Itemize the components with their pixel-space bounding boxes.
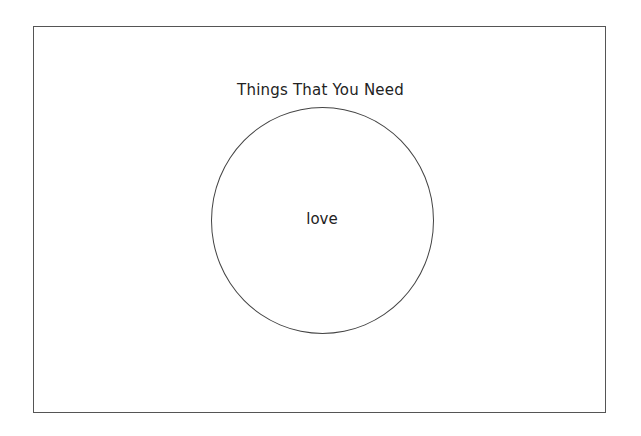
circle-label: love <box>222 210 422 228</box>
diagram-title: Things That You Need <box>0 81 641 99</box>
